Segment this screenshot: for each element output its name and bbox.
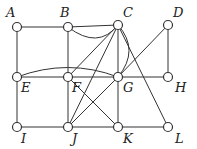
edges-layer <box>17 25 168 127</box>
node-label-D: D <box>172 5 184 20</box>
node-label-K: K <box>122 131 134 146</box>
edge-C-L <box>118 25 168 127</box>
node-label-A: A <box>5 5 15 20</box>
edge-D-G <box>118 25 168 77</box>
node-C <box>114 21 123 30</box>
node-label-E: E <box>20 80 31 95</box>
node-L <box>164 123 173 132</box>
node-label-H: H <box>174 80 187 95</box>
node-label-F: F <box>71 80 82 95</box>
node-K <box>114 123 123 132</box>
node-label-I: I <box>20 131 27 146</box>
node-G <box>114 73 123 82</box>
edge-C-G-curved <box>118 25 129 77</box>
graph-diagram: ABCDEFGHIJKL <box>0 0 197 149</box>
edge-C-F <box>68 25 118 77</box>
node-label-C: C <box>123 5 133 20</box>
edge-B-C <box>68 25 118 27</box>
node-label-B: B <box>59 5 70 20</box>
node-H <box>164 73 173 82</box>
node-label-J: J <box>69 131 78 146</box>
node-B <box>64 23 73 32</box>
node-label-L: L <box>174 131 184 146</box>
node-A <box>13 23 22 32</box>
node-label-G: G <box>123 80 133 95</box>
edge-C-J <box>68 25 118 127</box>
node-D <box>164 21 173 30</box>
